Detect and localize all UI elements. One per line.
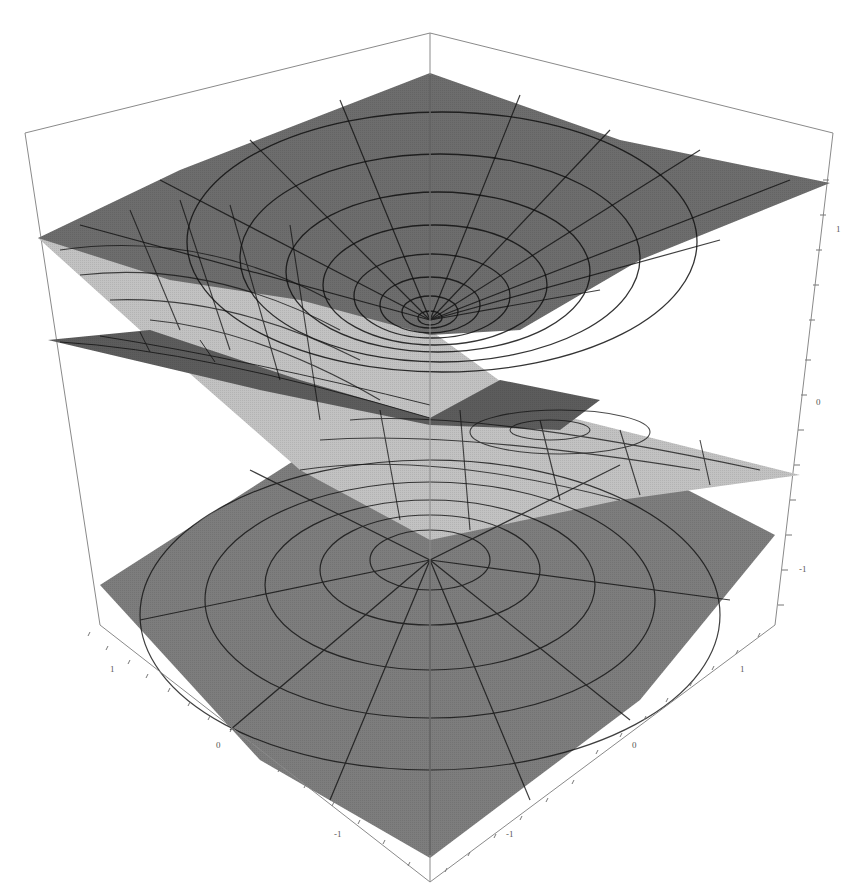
right-axis-tick-0: 0 bbox=[632, 740, 637, 750]
right-axis-tick-minus1: -1 bbox=[506, 829, 514, 839]
z-tick-1: 1 bbox=[836, 224, 841, 234]
left-axis-tick-minus1: -1 bbox=[334, 829, 342, 839]
z-tick-minus1: -1 bbox=[799, 564, 807, 574]
left-axis-tick-1: 1 bbox=[110, 664, 115, 674]
left-axis-tick-0: 0 bbox=[216, 740, 221, 750]
surface-plot-3d: 1 0 -1 1 0 -1 -1 0 bbox=[0, 0, 855, 892]
z-axis-ticks bbox=[778, 180, 829, 605]
right-axis-tick-1: 1 bbox=[740, 664, 745, 674]
z-tick-0: 0 bbox=[816, 397, 821, 407]
